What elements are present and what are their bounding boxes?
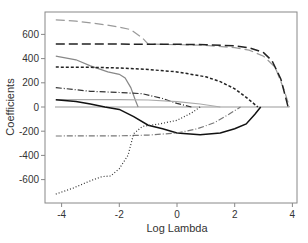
x-tick-label: 4 xyxy=(290,209,296,220)
plot-area xyxy=(55,20,290,194)
x-tick-label: 2 xyxy=(232,209,238,220)
series-line-coef-7 xyxy=(56,100,261,135)
y-axis: -600-400-2000200400600 xyxy=(19,29,45,185)
y-tick-label: 400 xyxy=(22,53,39,64)
series-line-coef-1 xyxy=(56,20,290,107)
y-axis-label: Coefficients xyxy=(4,78,16,136)
y-tick-label: -400 xyxy=(19,150,39,161)
y-tick-label: -600 xyxy=(19,174,39,185)
x-tick-label: -2 xyxy=(115,209,124,220)
series-line-coef-2 xyxy=(56,44,288,107)
y-tick-label: 200 xyxy=(22,77,39,88)
x-axis-label: Log Lambda xyxy=(146,222,208,234)
x-tick-label: -4 xyxy=(57,209,66,220)
y-tick-label: -200 xyxy=(19,126,39,137)
y-tick-label: 0 xyxy=(33,102,39,113)
x-axis: -4-2024 xyxy=(57,203,295,220)
series-line-coef-9 xyxy=(56,107,200,194)
series-line-coef-5 xyxy=(56,88,192,107)
y-tick-label: 600 xyxy=(22,29,39,40)
x-tick-label: 0 xyxy=(174,209,180,220)
coefficient-path-chart: -600-400-2000200400600 -4-2024 Coefficie… xyxy=(0,0,308,243)
series-line-coef-8 xyxy=(56,107,241,136)
